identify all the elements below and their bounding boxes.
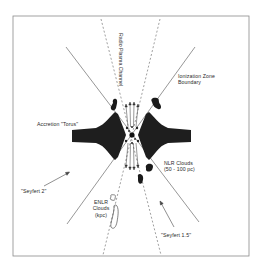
- torus-right-lobe: [138, 112, 191, 160]
- ionization-zone-label-line2: Boundary: [178, 79, 215, 85]
- enlr-clouds-label-line2: Clouds: [90, 205, 112, 211]
- central-nucleus: [129, 132, 134, 137]
- jet-arrows-up: [125, 102, 139, 127]
- nlr-cloud-upper-left: [111, 99, 117, 111]
- enlr-clouds-label: ENLR Clouds (kpc): [90, 199, 112, 218]
- ionization-zone-label: Ionization Zone Boundary: [178, 73, 215, 86]
- nlr-clouds-label-line2: (50 - 100 pc): [164, 166, 195, 172]
- seyfert15-arrow: [160, 201, 174, 227]
- accretion-torus-label: Accretion "Torus": [37, 121, 78, 127]
- torus-left-lobe: [72, 112, 126, 160]
- nlr-clouds-label: NLR Clouds (50 - 100 pc): [164, 160, 195, 173]
- enlr-clouds-label-line3: (kpc): [90, 212, 112, 218]
- nlr-cloud-upper-right: [151, 98, 161, 109]
- nlr-cloud-lower-right: [146, 164, 153, 172]
- agn-diagram: [0, 0, 264, 268]
- seyfert2-label: "Seyfert 2": [21, 188, 47, 194]
- seyfert15-label: "Seyfert 1.5": [161, 232, 191, 238]
- radio-plasma-channel-label: Radio Plasma Channel: [118, 33, 124, 86]
- seyfert2-arrow: [44, 172, 70, 186]
